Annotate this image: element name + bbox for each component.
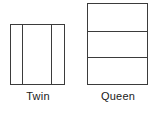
figure-twin [10, 24, 65, 85]
twin-outer-rectangle [10, 24, 65, 85]
caption-twin: Twin [4, 90, 72, 103]
queen-horizontal-divider-2 [87, 57, 148, 58]
figure-queen [87, 3, 148, 85]
diagram-canvas: Twin Queen [0, 0, 161, 114]
caption-queen: Queen [84, 90, 152, 103]
twin-vertical-divider-2 [51, 24, 52, 85]
queen-horizontal-divider-1 [87, 31, 148, 32]
queen-outer-rectangle [87, 3, 148, 85]
twin-vertical-divider-1 [22, 24, 23, 85]
